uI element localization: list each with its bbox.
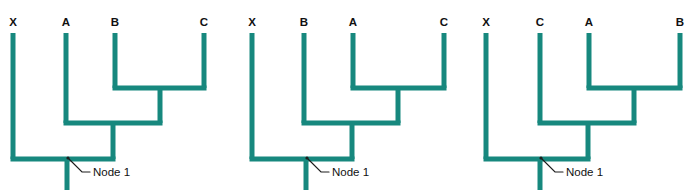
node-annotation-point xyxy=(305,156,308,159)
taxon-label-c: C xyxy=(536,16,544,28)
cladogram-3: XCABNode 1 xyxy=(482,16,684,190)
node-annotation-point xyxy=(66,156,69,159)
taxon-label-a: A xyxy=(585,16,593,28)
cladogram-figure: XABCNode 1XBACNode 1XCABNode 1 xyxy=(0,0,697,196)
taxon-label-x: X xyxy=(9,16,17,28)
cladogram-2: XBACNode 1 xyxy=(248,16,448,190)
node-annotation-point xyxy=(539,156,542,159)
taxon-label-x: X xyxy=(248,16,256,28)
taxon-label-c: C xyxy=(440,16,448,28)
taxon-label-b: B xyxy=(676,16,684,28)
taxon-label-b: B xyxy=(111,16,119,28)
cladogram-1: XABCNode 1 xyxy=(9,16,208,190)
cladogram-canvas: XABCNode 1XBACNode 1XCABNode 1 xyxy=(0,0,697,196)
node-annotation-label: Node 1 xyxy=(93,166,130,178)
taxon-label-b: B xyxy=(300,16,308,28)
node-annotation-label: Node 1 xyxy=(332,166,369,178)
taxon-label-a: A xyxy=(62,16,70,28)
taxon-label-x: X xyxy=(482,16,490,28)
taxon-label-c: C xyxy=(200,16,208,28)
node-annotation-label: Node 1 xyxy=(566,166,603,178)
taxon-label-a: A xyxy=(349,16,357,28)
